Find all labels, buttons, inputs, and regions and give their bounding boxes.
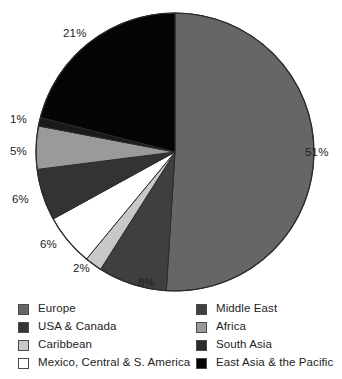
pie-value-label-europe: 51% [305, 147, 329, 159]
legend-swatch-mexico-central-and-s-america [18, 358, 29, 369]
legend-column-left: EuropeUSA & CanadaCaribbeanMexico, Centr… [18, 300, 190, 372]
pie-value-label-africa: 5% [10, 146, 27, 158]
legend-item-east-asia-and-the-pacific[interactable]: East Asia & the Pacific [196, 354, 342, 372]
legend-item-mexico-central-and-s-america[interactable]: Mexico, Central & S. America [18, 354, 190, 372]
legend-swatch-usa-and-canada [18, 322, 29, 333]
pie-value-label-south-asia: 1% [10, 114, 27, 126]
legend-label-africa: Africa [216, 321, 246, 333]
legend-swatch-europe [18, 304, 29, 315]
legend-swatch-africa [196, 322, 207, 333]
legend-swatch-east-asia-and-the-pacific [196, 358, 207, 369]
legend-column-right: Middle EastAfricaSouth AsiaEast Asia & t… [196, 300, 342, 372]
legend-item-usa-and-canada[interactable]: USA & Canada [18, 318, 190, 336]
pie-slice-europe[interactable] [166, 13, 314, 291]
pie-chart-plot-area: 51%8%2%6%6%5%1%21% [0, 0, 342, 296]
pie-slice-group [36, 13, 314, 291]
legend-label-caribbean: Caribbean [38, 339, 92, 351]
legend-swatch-caribbean [18, 340, 29, 351]
legend-label-middle-east: Middle East [216, 303, 277, 315]
legend-item-africa[interactable]: Africa [196, 318, 342, 336]
chart-legend: EuropeUSA & CanadaCaribbeanMexico, Centr… [0, 296, 342, 379]
legend-label-europe: Europe [38, 303, 76, 315]
pie-value-label-caribbean: 2% [73, 263, 90, 275]
pie-value-label-usa-canada: 6% [12, 194, 29, 206]
pie-value-label-mexico: 6% [40, 239, 57, 251]
legend-item-south-asia[interactable]: South Asia [196, 336, 342, 354]
pie-chart-figure: 51%8%2%6%6%5%1%21% EuropeUSA & CanadaCar… [0, 0, 342, 379]
legend-label-usa-and-canada: USA & Canada [38, 321, 117, 333]
pie-chart-svg [0, 0, 342, 296]
pie-value-label-east-asia: 21% [63, 28, 87, 40]
legend-item-middle-east[interactable]: Middle East [196, 300, 342, 318]
legend-item-caribbean[interactable]: Caribbean [18, 336, 190, 354]
legend-item-europe[interactable]: Europe [18, 300, 190, 318]
legend-label-mexico-central-and-s-america: Mexico, Central & S. America [38, 357, 190, 369]
pie-value-label-middle-east: 8% [138, 277, 155, 289]
legend-label-south-asia: South Asia [216, 339, 272, 351]
legend-label-east-asia-and-the-pacific: East Asia & the Pacific [216, 357, 333, 369]
legend-swatch-middle-east [196, 304, 207, 315]
legend-swatch-south-asia [196, 340, 207, 351]
